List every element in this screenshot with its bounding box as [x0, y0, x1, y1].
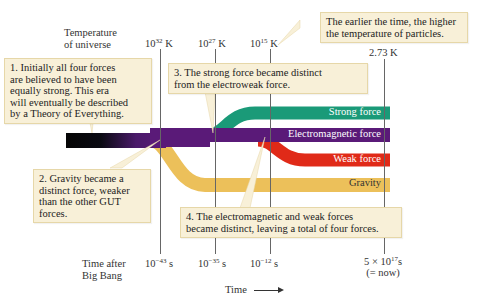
four-forces-diagram: Temperature of universe 1032 K 1027 K 10…	[0, 0, 485, 306]
time-tick-2: 10−35 s	[198, 258, 226, 269]
temperature-axis-label: Temperature of universe	[64, 27, 117, 51]
time-tick-3: 10−12 s	[250, 258, 278, 269]
step3-callout: 3. The strong force became distinct from…	[168, 63, 368, 94]
time-tick-1: 10−43 s	[145, 258, 173, 269]
time-axis-label: Time after Big Bang	[82, 258, 126, 282]
temp-tick-3: 1015 K	[250, 38, 278, 49]
step2-callout: 2. Gravity became a distinct force, weak…	[33, 169, 151, 223]
gravity-label: Gravity	[349, 177, 381, 188]
temperature-note-callout: The earlier the time, the higher the tem…	[320, 12, 468, 43]
step1-callout: 1. Initially all four forces are believe…	[4, 58, 152, 124]
strong-force-label: Strong force	[329, 106, 381, 117]
temp-tick-2: 1027 K	[198, 38, 226, 49]
right-arrow-icon	[254, 290, 282, 291]
temp-tick-4: 2.73 K	[369, 47, 398, 58]
gridline-planck	[160, 49, 161, 254]
step4-callout: 4. The electromagnetic and weak forces b…	[180, 207, 402, 238]
time-tick-4: 5 × 1017s (= now)	[364, 256, 402, 278]
temp-tick-1: 1032 K	[145, 38, 173, 49]
weak-force-label: Weak force	[333, 153, 381, 164]
electromagnetic-force-label: Electromagnetic force	[288, 128, 381, 139]
time-arrow: Time	[225, 284, 282, 295]
